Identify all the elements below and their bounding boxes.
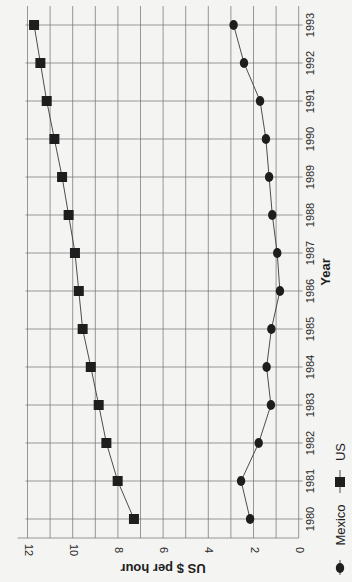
marker-mexico bbox=[240, 58, 248, 68]
marker-us bbox=[42, 96, 52, 106]
year-tick-label: 1985 bbox=[304, 317, 316, 341]
marker-mexico bbox=[273, 248, 281, 258]
year-tick-labels: 1980198119821983198419851986198719881989… bbox=[304, 13, 316, 531]
year-tick-label: 1982 bbox=[304, 431, 316, 455]
year-tick-label: 1990 bbox=[304, 127, 316, 151]
rotated-line-chart: 1980198119821983198419851986198719881989… bbox=[0, 0, 352, 582]
marker-us bbox=[35, 58, 45, 68]
x-axis-title: Year bbox=[318, 258, 333, 285]
marker-mexico bbox=[254, 438, 262, 448]
marker-us bbox=[57, 172, 67, 182]
marker-mexico bbox=[267, 400, 275, 410]
value-tick-label: 12 bbox=[23, 544, 35, 556]
year-tick-label: 1991 bbox=[304, 89, 316, 113]
marker-us bbox=[113, 476, 123, 486]
year-tick-label: 1983 bbox=[304, 393, 316, 417]
marker-us bbox=[129, 514, 139, 524]
marker-us bbox=[49, 134, 59, 144]
legend: MexicoUS bbox=[333, 443, 348, 575]
value-tick-label: 0 bbox=[294, 547, 306, 553]
legend-marker-us bbox=[335, 477, 345, 487]
year-tick-label: 1993 bbox=[304, 13, 316, 37]
marker-mexico bbox=[265, 172, 273, 182]
marker-us bbox=[78, 324, 88, 334]
legend-marker-mexico bbox=[336, 563, 344, 573]
series-layer bbox=[29, 20, 284, 524]
marker-us bbox=[94, 400, 104, 410]
marker-us bbox=[101, 438, 111, 448]
marker-us bbox=[70, 248, 80, 258]
value-tick-label: 6 bbox=[158, 547, 170, 553]
year-tick-label: 1987 bbox=[304, 241, 316, 265]
marker-us bbox=[86, 362, 96, 372]
year-tick-label: 1989 bbox=[304, 165, 316, 189]
marker-us bbox=[74, 286, 84, 296]
marker-mexico bbox=[256, 96, 264, 106]
marker-mexico bbox=[276, 286, 284, 296]
y-axis-title: US $ per hour bbox=[120, 561, 205, 576]
marker-mexico bbox=[268, 210, 276, 220]
legend-label-mexico: Mexico bbox=[333, 504, 348, 545]
marker-us bbox=[64, 210, 74, 220]
legend-label-us: US bbox=[333, 443, 348, 461]
marker-us bbox=[29, 20, 39, 30]
value-tick-labels: 024681012 bbox=[23, 544, 306, 556]
value-tick-label: 2 bbox=[249, 547, 261, 553]
year-tick-label: 1986 bbox=[304, 279, 316, 303]
year-tick-label: 1984 bbox=[304, 355, 316, 379]
year-tick-label: 1992 bbox=[304, 51, 316, 75]
value-tick-label: 4 bbox=[203, 547, 215, 553]
year-tick-label: 1988 bbox=[304, 203, 316, 227]
marker-mexico bbox=[237, 476, 245, 486]
marker-mexico bbox=[262, 134, 270, 144]
value-gridlines bbox=[18, 6, 299, 538]
marker-mexico bbox=[229, 20, 237, 30]
marker-mexico bbox=[267, 324, 275, 334]
year-tick-label: 1980 bbox=[304, 507, 316, 531]
value-tick-label: 8 bbox=[113, 547, 125, 553]
marker-mexico bbox=[246, 514, 254, 524]
year-tick-label: 1981 bbox=[304, 469, 316, 493]
marker-mexico bbox=[262, 362, 270, 372]
value-tick-label: 10 bbox=[68, 544, 80, 556]
